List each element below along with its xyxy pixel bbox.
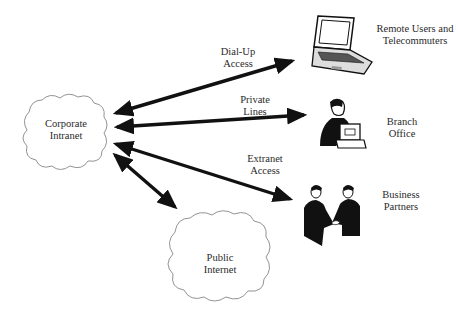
label-line: Internet	[190, 264, 250, 276]
arrow-public-internet	[115, 155, 175, 207]
corporate-intranet-label: Corporate Intranet	[36, 118, 96, 142]
remote-users-label: Remote Users and Telecommuters	[370, 23, 458, 47]
public-internet-label: Public Internet	[190, 252, 250, 276]
extranet-access-label: Extranet Access	[240, 153, 290, 177]
label-line: Branch	[380, 116, 424, 128]
label-line: Extranet	[240, 153, 290, 165]
laptop-icon	[312, 16, 372, 74]
label-line: Dial-Up	[213, 46, 263, 58]
label-line: Office	[380, 128, 424, 140]
label-line: Access	[240, 165, 290, 177]
business-partners-label: Business Partners	[376, 189, 426, 213]
label-line: Public	[190, 252, 250, 264]
label-line: Remote Users and	[370, 23, 458, 35]
office-worker-icon	[320, 99, 366, 148]
label-line: Intranet	[36, 130, 96, 142]
label-line: Access	[213, 58, 263, 70]
branch-office-label: Branch Office	[380, 116, 424, 140]
label-line: Telecommuters	[370, 35, 458, 47]
handshake-icon	[304, 185, 360, 246]
label-line: Private	[232, 94, 278, 106]
dial-up-access-label: Dial-Up Access	[213, 46, 263, 70]
label-line: Partners	[376, 201, 426, 213]
label-line: Business	[376, 189, 426, 201]
private-lines-label: Private Lines	[232, 94, 278, 118]
label-line: Lines	[232, 106, 278, 118]
label-line: Corporate	[36, 118, 96, 130]
